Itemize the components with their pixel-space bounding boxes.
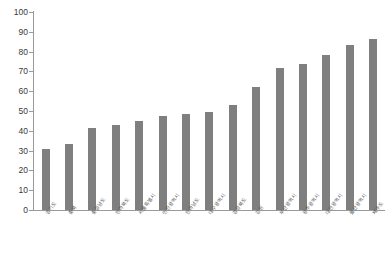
bar-slot (174, 12, 197, 210)
bar (159, 116, 167, 210)
y-axis-tick-label: 20 (2, 166, 28, 174)
bar-slot (245, 12, 268, 210)
y-axis-tick (29, 91, 34, 92)
y-axis-tick-label: 40 (2, 127, 28, 135)
y-axis-tick-label: 80 (2, 48, 28, 56)
bar-slot (57, 12, 80, 210)
bar-series (34, 12, 385, 210)
y-axis-tick (29, 170, 34, 171)
bar (65, 144, 73, 210)
bar (182, 114, 190, 210)
bar-slot (362, 12, 385, 210)
bar (322, 55, 330, 210)
bar-slot (151, 12, 174, 210)
y-axis-tick (29, 151, 34, 152)
x-axis-label-slot: 충청남도 (81, 211, 104, 253)
bar (205, 112, 213, 210)
y-axis-tick-label: 100 (2, 8, 28, 16)
bar (346, 45, 354, 210)
y-axis-tick-label: 0 (2, 206, 28, 214)
bar-slot (315, 12, 338, 210)
x-axis-label-slot: 제주도 (362, 211, 385, 253)
bar-slot (291, 12, 314, 210)
y-axis-tick-label: 10 (2, 186, 28, 194)
x-axis-label-slot: 부산광역시 (268, 211, 291, 253)
bar (112, 125, 120, 210)
x-axis-label-slot: 충북 (57, 211, 80, 253)
y-axis-tick-label: 50 (2, 107, 28, 115)
y-axis-tick (29, 52, 34, 53)
x-axis-label-slot: 강원 (245, 211, 268, 253)
bar-chart: 경기도충북충청남도전라북도서울특별시인천광역시전라남도대구광역시경상북도강원부산… (0, 0, 389, 253)
bar-slot (198, 12, 221, 210)
bar (252, 87, 260, 210)
y-axis-tick (29, 12, 34, 13)
y-axis-tick-label: 70 (2, 67, 28, 75)
y-axis-tick (29, 71, 34, 72)
y-axis-tick-label: 30 (2, 147, 28, 155)
y-axis-tick (29, 111, 34, 112)
bar (369, 39, 377, 210)
x-axis-label-slot: 광주광역시 (291, 211, 314, 253)
x-axis-label-slot: 경상북도 (221, 211, 244, 253)
bar-slot (128, 12, 151, 210)
y-axis-tick (29, 131, 34, 132)
bar (229, 105, 237, 210)
y-axis-tick-label: 90 (2, 28, 28, 36)
y-axis-tick-label: 60 (2, 87, 28, 95)
bar-slot (268, 12, 291, 210)
y-axis-tick (29, 190, 34, 191)
x-axis-label-slot: 경기도 (34, 211, 57, 253)
x-axis-labels: 경기도충북충청남도전라북도서울특별시인천광역시전라남도대구광역시경상북도강원부산… (34, 211, 385, 253)
bar-slot (338, 12, 361, 210)
bar-slot (34, 12, 57, 210)
x-axis-label-slot: 전라북도 (104, 211, 127, 253)
bar (299, 64, 307, 210)
bar-slot (81, 12, 104, 210)
y-axis-tick (29, 210, 34, 211)
x-axis-label-slot: 대구광역시 (198, 211, 221, 253)
bar (135, 121, 143, 210)
y-axis-tick (29, 32, 34, 33)
x-axis-label-slot: 서울특별시 (128, 211, 151, 253)
x-axis-label-slot: 대전광역시 (315, 211, 338, 253)
x-axis-category-label: 강원 (255, 205, 265, 216)
bar (88, 128, 96, 210)
bar-slot (221, 12, 244, 210)
x-axis-label-slot: 인천광역시 (151, 211, 174, 253)
bar (42, 149, 50, 210)
x-axis-label-slot: 전라남도 (174, 211, 197, 253)
bar-slot (104, 12, 127, 210)
x-axis-label-slot: 울산광역시 (338, 211, 361, 253)
bar (276, 68, 284, 210)
